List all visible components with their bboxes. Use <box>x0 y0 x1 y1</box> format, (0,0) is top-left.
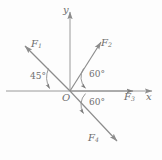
angle-arc-45 <box>47 69 50 89</box>
force-vector-f2 <box>70 42 101 91</box>
y-axis-label: y <box>63 5 69 15</box>
force-label-f3-sub: 3 <box>131 95 135 102</box>
force-label-f4-base: F <box>88 132 95 143</box>
force-label-f1-base: F <box>31 38 38 49</box>
force-label-f2-base: F <box>101 37 108 48</box>
force-label-f4: F4 <box>88 133 99 143</box>
angle-label-45: 45° <box>30 72 46 81</box>
force-label-f3: F3 <box>124 92 135 102</box>
angle-arc-60-upper <box>81 69 86 89</box>
force-label-f2: F2 <box>101 38 112 48</box>
force-label-f1-sub: 1 <box>38 42 42 49</box>
diagram-canvas <box>0 0 162 160</box>
x-axis-label: x <box>146 92 152 102</box>
force-label-f3-base: F <box>124 91 131 102</box>
force-label-f1: F1 <box>31 39 42 49</box>
force-label-f2-sub: 2 <box>108 41 112 48</box>
origin-label: O <box>62 93 70 103</box>
angle-label-60-lower: 60° <box>89 98 105 107</box>
angle-label-60-upper: 60° <box>89 70 105 79</box>
force-diagram-figure: y x O F1 F2 F3 F4 45° 60° 60° <box>0 0 162 160</box>
force-label-f4-sub: 4 <box>95 136 99 143</box>
